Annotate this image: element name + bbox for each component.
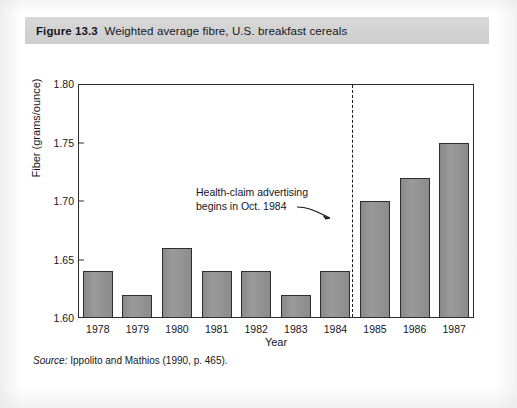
- bar-1978: [83, 271, 113, 318]
- source-text: Ippolito and Mathios (1990, p. 465).: [67, 355, 227, 366]
- x-axis-tick-label: 1978: [86, 323, 109, 335]
- bar-1984: [320, 271, 350, 318]
- y-axis-tick-label: 1.65: [54, 254, 74, 266]
- source-label: Source:: [33, 355, 67, 366]
- x-axis-title: Year: [0, 336, 517, 350]
- chart-plot-area: Fiber (grams/ounce) 1.601.651.701.751.80…: [0, 0, 517, 408]
- bar-1986: [400, 178, 430, 318]
- bar-1987: [439, 143, 469, 319]
- y-axis-tick-label: 1.70: [54, 195, 74, 207]
- y-axis-tick-mark: [78, 142, 84, 143]
- x-axis-tick-label: 1986: [403, 323, 426, 335]
- x-axis-tick-label: 1984: [324, 323, 347, 335]
- bar-1982: [241, 271, 271, 318]
- source-note: Source: Ippolito and Mathios (1990, p. 4…: [33, 355, 228, 366]
- annotation-arrow-icon: [296, 206, 340, 222]
- x-axis-tick-label: 1982: [245, 323, 268, 335]
- bar-1979: [122, 295, 152, 318]
- x-axis-tick-label: 1980: [165, 323, 188, 335]
- event-marker-dashed-line: [352, 85, 353, 317]
- x-axis-tick-labels: 1978197919801981198219831984198519861987: [0, 320, 517, 335]
- bar-1983: [281, 295, 311, 318]
- bar-1980: [162, 248, 192, 318]
- y-axis-tick-mark: [78, 201, 84, 202]
- x-axis-tick-label: 1987: [443, 323, 466, 335]
- x-axis-tick-label: 1979: [126, 323, 149, 335]
- y-axis-tick-label: 1.75: [54, 137, 74, 149]
- annotation-line-1: Health-claim advertising: [196, 186, 328, 200]
- figure-page: Figure 13.3 Weighted average fibre, U.S.…: [0, 0, 517, 408]
- bar-1981: [202, 271, 232, 318]
- bar-1985: [360, 201, 390, 318]
- y-axis-tick-mark: [78, 259, 84, 260]
- x-axis-tick-label: 1981: [205, 323, 228, 335]
- x-axis-tick-label: 1983: [284, 323, 307, 335]
- x-axis-tick-label: 1985: [363, 323, 386, 335]
- y-axis-tick-label: 1.80: [54, 78, 74, 90]
